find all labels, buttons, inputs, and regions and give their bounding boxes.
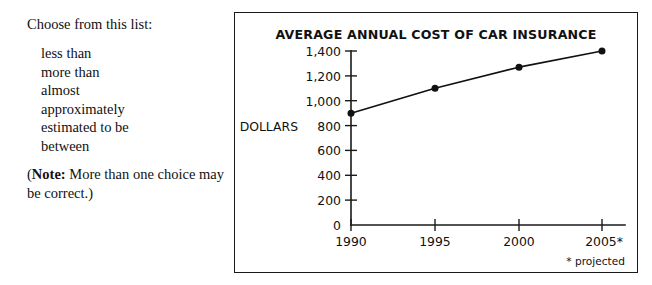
choice-list: less than more than almost approximately…: [41, 44, 129, 156]
x-tick-label: 1990: [335, 234, 367, 249]
list-item[interactable]: between: [41, 137, 129, 156]
x-axis-labels: 1990 1995 2000 2005*: [335, 234, 623, 249]
prompt-heading: Choose from this list:: [27, 17, 152, 33]
y-tick-label: 800: [317, 119, 341, 134]
list-item[interactable]: more than: [41, 63, 129, 82]
y-tick-label: 200: [317, 193, 341, 208]
chart-panel: AVERAGE ANNUAL COST OF CAR INSURANCE 1,4…: [234, 12, 638, 273]
x-tick-label: 2005*: [585, 234, 623, 249]
y-tick-label: 0: [333, 218, 341, 233]
instruction-panel: Choose from this list: less than more th…: [0, 0, 232, 285]
data-point: [599, 48, 606, 55]
list-item[interactable]: approximately: [41, 100, 129, 119]
note-label: Note:: [32, 166, 66, 182]
note-block: (Note: More than one choice may be corre…: [27, 165, 227, 202]
y-tick-label: 1,000: [306, 94, 342, 109]
list-item[interactable]: less than: [41, 44, 129, 63]
y-axis-labels: 1,400 1,200 1,000 800 600 400 200 0: [306, 44, 342, 233]
data-series-line: [351, 51, 602, 113]
x-tick-label: 1995: [419, 234, 451, 249]
y-tick-label: 1,200: [306, 69, 342, 84]
list-item[interactable]: almost: [41, 81, 129, 100]
y-tick-label: 400: [317, 168, 341, 183]
data-point: [432, 85, 439, 92]
data-point: [348, 110, 355, 117]
x-tick-label: 2000: [503, 234, 535, 249]
list-item[interactable]: estimated to be: [41, 118, 129, 137]
footnote-projected: * projected: [566, 255, 625, 267]
y-tick-label: 600: [317, 143, 341, 158]
y-axis-title: DOLLARS: [240, 119, 298, 134]
line-chart: 1,400 1,200 1,000 800 600 400 200 0 DOLL…: [235, 13, 639, 274]
data-point: [516, 64, 523, 71]
y-tick-label: 1,400: [306, 44, 342, 59]
